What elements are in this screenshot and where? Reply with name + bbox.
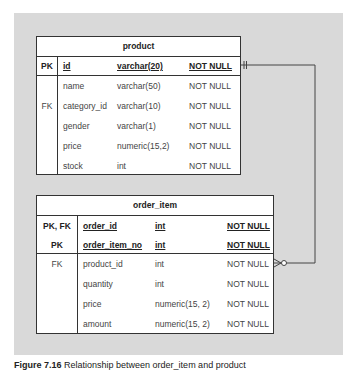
order-item-column-type: int — [155, 221, 165, 231]
product-pk-divider — [37, 75, 240, 76]
order-item-column-name: price — [83, 299, 101, 309]
order-item-key-cell: PK — [37, 240, 77, 250]
order-item-column-name: order_id — [83, 221, 117, 231]
order-item-column-constraint: NOT NULL — [227, 299, 269, 309]
product-column-constraint: NOT NULL — [189, 141, 231, 151]
order-item-column-type: numeric(15, 2) — [155, 299, 210, 309]
product-column-type: int — [117, 161, 126, 171]
order-item-column-type: int — [155, 259, 164, 269]
order-item-column-constraint: NOT NULL — [227, 221, 270, 231]
product-column-type: varchar(1) — [117, 121, 156, 131]
order-item-column-name: product_id — [83, 259, 123, 269]
order-item-column-type: int — [155, 279, 164, 289]
product-column-constraint: NOT NULL — [189, 101, 231, 111]
order-item-key-column-divider — [77, 215, 78, 333]
order-item-column-name: quantity — [83, 279, 113, 289]
product-key-cell: FK — [37, 101, 57, 111]
order-item-column-constraint: NOT NULL — [227, 259, 269, 269]
order-item-key-cell: PK, FK — [37, 221, 77, 231]
order-item-column-type: int — [155, 240, 165, 250]
order-item-column-type: numeric(15, 2) — [155, 319, 210, 329]
order-item-pk-divider — [37, 253, 273, 254]
product-column-constraint: NOT NULL — [189, 121, 231, 131]
figure-caption-text: Relationship between order_item and prod… — [64, 360, 246, 370]
product-column-name: category_id — [63, 101, 107, 111]
product-column-constraint: NOT NULL — [189, 81, 231, 91]
order-item-column-constraint: NOT NULL — [227, 279, 269, 289]
order-item-column-name: amount — [83, 319, 111, 329]
product-table: product PK id varchar(20) NOT NULL name … — [36, 36, 241, 175]
product-column-name: id — [63, 61, 71, 71]
figure-label: Figure 7.16 — [14, 360, 62, 370]
product-column-name: price — [63, 141, 81, 151]
order-item-table-title: order_item — [37, 196, 273, 216]
product-column-constraint: NOT NULL — [189, 161, 231, 171]
order-item-key-cell: FK — [37, 259, 77, 269]
product-column-type: varchar(50) — [117, 81, 160, 91]
figure-caption: Figure 7.16 Relationship between order_i… — [14, 360, 246, 370]
product-column-type: varchar(10) — [117, 101, 160, 111]
product-column-name: name — [63, 81, 84, 91]
product-key-cell: PK — [37, 61, 57, 71]
product-table-title: product — [37, 37, 240, 57]
order-item-table: order_item PK, FK order_id int NOT NULL … — [36, 195, 274, 334]
order-item-column-name: order_item_no — [83, 240, 142, 250]
product-column-type: numeric(15,2) — [117, 141, 169, 151]
product-column-name: stock — [63, 161, 83, 171]
product-column-type: varchar(20) — [117, 61, 163, 71]
order-item-column-constraint: NOT NULL — [227, 319, 269, 329]
product-column-constraint: NOT NULL — [189, 61, 232, 71]
product-key-column-divider — [57, 56, 58, 174]
order-item-column-constraint: NOT NULL — [227, 240, 270, 250]
product-column-name: gender — [63, 121, 89, 131]
